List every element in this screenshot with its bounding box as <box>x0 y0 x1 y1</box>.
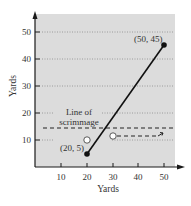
open-point-receiver <box>110 133 116 139</box>
start-point <box>84 151 90 157</box>
chart: 50 40 30 20 10 10 20 30 40 50 Yards Yard… <box>0 0 191 206</box>
x-tick-label: 30 <box>109 172 119 182</box>
y-axis-title: Yards <box>8 75 18 97</box>
scrimmage-label-line1: Line of <box>66 107 92 117</box>
x-tick-label: 50 <box>160 172 170 182</box>
x-tick-label: 10 <box>57 172 67 182</box>
y-tick-label: 10 <box>22 135 32 145</box>
start-point-label: (20, 5) <box>60 143 84 153</box>
y-tick-label: 40 <box>22 54 32 64</box>
x-axis-arrow-icon <box>177 165 185 170</box>
x-tick-label: 20 <box>83 172 93 182</box>
x-tick-label: 40 <box>134 172 144 182</box>
y-tick-label: 30 <box>22 81 32 91</box>
x-axis-title: Yards <box>97 184 119 194</box>
end-point-label: (50, 45) <box>134 34 163 44</box>
y-tick-label: 20 <box>22 108 32 118</box>
open-point-qb <box>84 137 90 143</box>
scrimmage-label-line2: scrimmage <box>59 117 99 127</box>
y-tick-label: 50 <box>22 27 32 37</box>
